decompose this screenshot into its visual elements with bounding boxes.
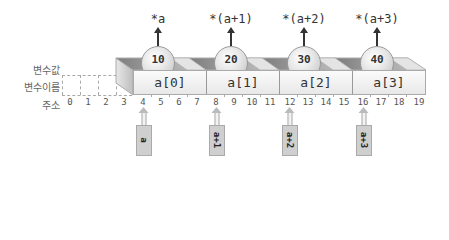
pointer-label-0: a <box>139 137 149 142</box>
pointer-label-3: a+3 <box>359 132 369 148</box>
element-name-0: a[0] <box>134 71 207 94</box>
element-name-1: a[1] <box>207 71 280 94</box>
pointer-label-1: a+1 <box>212 132 222 148</box>
element-name-2: a[2] <box>280 71 353 94</box>
pointer-label-2: a+2 <box>285 132 295 148</box>
pointer-box-2: a+2 <box>282 125 298 156</box>
pointer-box-0: a <box>136 125 152 156</box>
pointer-box-3: a+3 <box>356 125 372 156</box>
array-block-front: a[0] a[1] a[2] a[3] <box>133 70 426 95</box>
element-name-3: a[3] <box>353 71 425 94</box>
pointer-box-1: a+1 <box>209 125 225 156</box>
